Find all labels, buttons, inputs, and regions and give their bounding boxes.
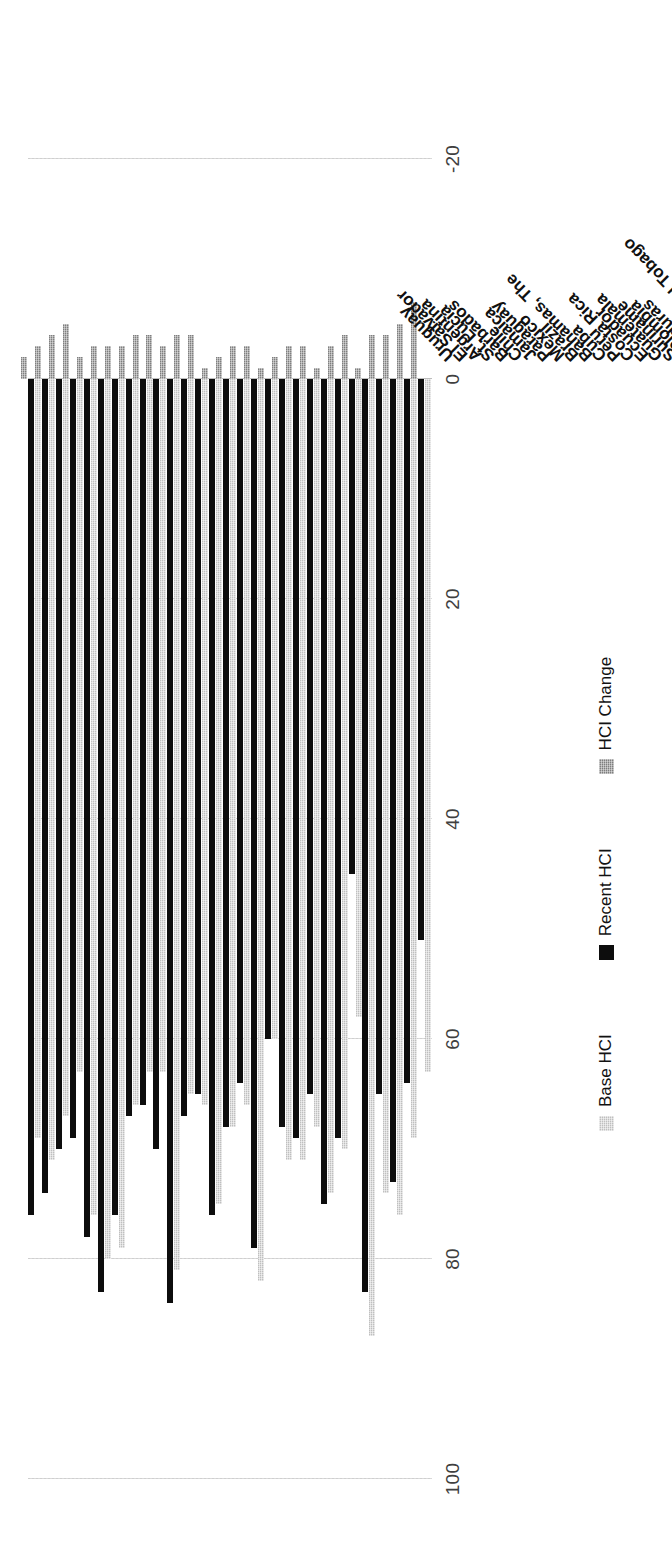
bar-recent-hci — [140, 379, 146, 1105]
bar-hci-change — [133, 335, 139, 379]
bar-hci-change — [91, 346, 97, 379]
bar-recent-hci — [362, 379, 368, 1292]
bar-base-hci — [202, 379, 208, 1105]
legend-label: Recent HCI — [596, 848, 616, 936]
bar-recent-hci — [56, 379, 62, 1149]
bar-group — [418, 159, 432, 1479]
bar-base-hci — [411, 379, 417, 1138]
bar-recent-hci — [153, 379, 159, 1149]
bar-recent-hci — [279, 379, 285, 1127]
bar-base-hci — [314, 379, 320, 1127]
bar-hci-change — [314, 368, 320, 379]
bar-base-hci — [369, 379, 375, 1336]
legend-swatch-icon — [599, 759, 614, 774]
legend-item[interactable]: Base HCI — [596, 1034, 616, 1131]
bar-hci-change — [105, 346, 111, 379]
bar-base-hci — [77, 379, 83, 1072]
bar-hci-change — [383, 335, 389, 379]
legend-swatch-icon — [599, 1116, 614, 1131]
bar-hci-change — [369, 335, 375, 379]
bar-group — [195, 159, 209, 1479]
bar-hci-change — [342, 335, 348, 379]
chart-figure: -20020406080100 UruguayEl SalvadorArgent… — [0, 0, 672, 1561]
bar-recent-hci — [181, 379, 187, 1116]
bar-recent-hci — [112, 379, 118, 1215]
bar-base-hci — [272, 379, 278, 1039]
bar-recent-hci — [404, 379, 410, 1083]
legend-label: HCI Change — [596, 657, 616, 751]
bar-base-hci — [258, 379, 264, 1281]
bar-base-hci — [397, 379, 403, 1215]
legend-item[interactable]: HCI Change — [596, 657, 616, 775]
bar-base-hci — [133, 379, 139, 1105]
plot-area — [28, 159, 432, 1479]
bar-base-hci — [300, 379, 306, 1160]
bar-recent-hci — [28, 379, 34, 1215]
bar-base-hci — [328, 379, 334, 1193]
bar-hci-change — [355, 368, 361, 379]
bar-hci-change — [160, 346, 166, 379]
bar-hci-change — [272, 357, 278, 379]
bar-base-hci — [286, 379, 292, 1160]
bar-recent-hci — [126, 379, 132, 1116]
bar-hci-change — [49, 335, 55, 379]
legend-label: Base HCI — [596, 1034, 616, 1107]
bar-base-hci — [105, 379, 111, 1259]
bar-hci-change — [35, 346, 41, 379]
bar-base-hci — [216, 379, 222, 1204]
bar-recent-hci — [265, 379, 271, 1039]
bar-base-hci — [147, 379, 153, 1072]
bar-recent-hci — [251, 379, 257, 1248]
bar-base-hci — [230, 379, 236, 1127]
bar-hci-change — [21, 357, 27, 379]
bar-recent-hci — [376, 379, 382, 1094]
bar-recent-hci — [195, 379, 201, 1094]
bar-recent-hci — [418, 379, 424, 940]
bar-recent-hci — [42, 379, 48, 1193]
bar-hci-change — [244, 346, 250, 379]
bar-base-hci — [425, 379, 431, 1072]
bar-base-hci — [119, 379, 125, 1248]
bar-recent-hci — [98, 379, 104, 1292]
bar-hci-change — [174, 335, 180, 379]
bar-base-hci — [356, 379, 362, 1017]
bar-recent-hci — [84, 379, 90, 1237]
bar-hci-change — [119, 346, 125, 379]
bar-recent-hci — [335, 379, 341, 1138]
bar-hci-change — [63, 324, 69, 379]
bar-hci-change — [230, 346, 236, 379]
bar-recent-hci — [167, 379, 173, 1303]
bar-recent-hci — [209, 379, 215, 1215]
bar-recent-hci — [349, 379, 355, 874]
bar-base-hci — [35, 379, 41, 1138]
bar-base-hci — [49, 379, 55, 1160]
bar-base-hci — [188, 379, 194, 1094]
bar-recent-hci — [390, 379, 396, 1182]
legend-item[interactable]: Recent HCI — [596, 848, 616, 960]
bar-recent-hci — [237, 379, 243, 1083]
bar-hci-change — [77, 357, 83, 379]
bar-hci-change — [216, 357, 222, 379]
bar-recent-hci — [293, 379, 299, 1138]
bar-hci-change — [286, 346, 292, 379]
bar-base-hci — [342, 379, 348, 1149]
category-labels: UruguayEl SalvadorArgentinaSt. LuciaBarb… — [436, 159, 566, 1479]
bar-group — [251, 159, 265, 1479]
bar-base-hci — [244, 379, 250, 1105]
legend-swatch-icon — [599, 945, 614, 960]
bar-hci-change — [146, 335, 152, 379]
bar-recent-hci — [223, 379, 229, 1127]
bar-hci-change — [188, 335, 194, 379]
bar-base-hci — [91, 379, 97, 1215]
bar-hci-change — [397, 324, 403, 379]
bar-group — [307, 159, 321, 1479]
bar-base-hci — [174, 379, 180, 1270]
bar-hci-change — [202, 368, 208, 379]
bar-recent-hci — [70, 379, 76, 1138]
bar-recent-hci — [307, 379, 313, 1094]
bar-hci-change — [300, 346, 306, 379]
bar-hci-change — [258, 368, 264, 379]
bar-base-hci — [63, 379, 69, 1116]
bar-group — [348, 159, 362, 1479]
bar-hci-change — [328, 346, 334, 379]
